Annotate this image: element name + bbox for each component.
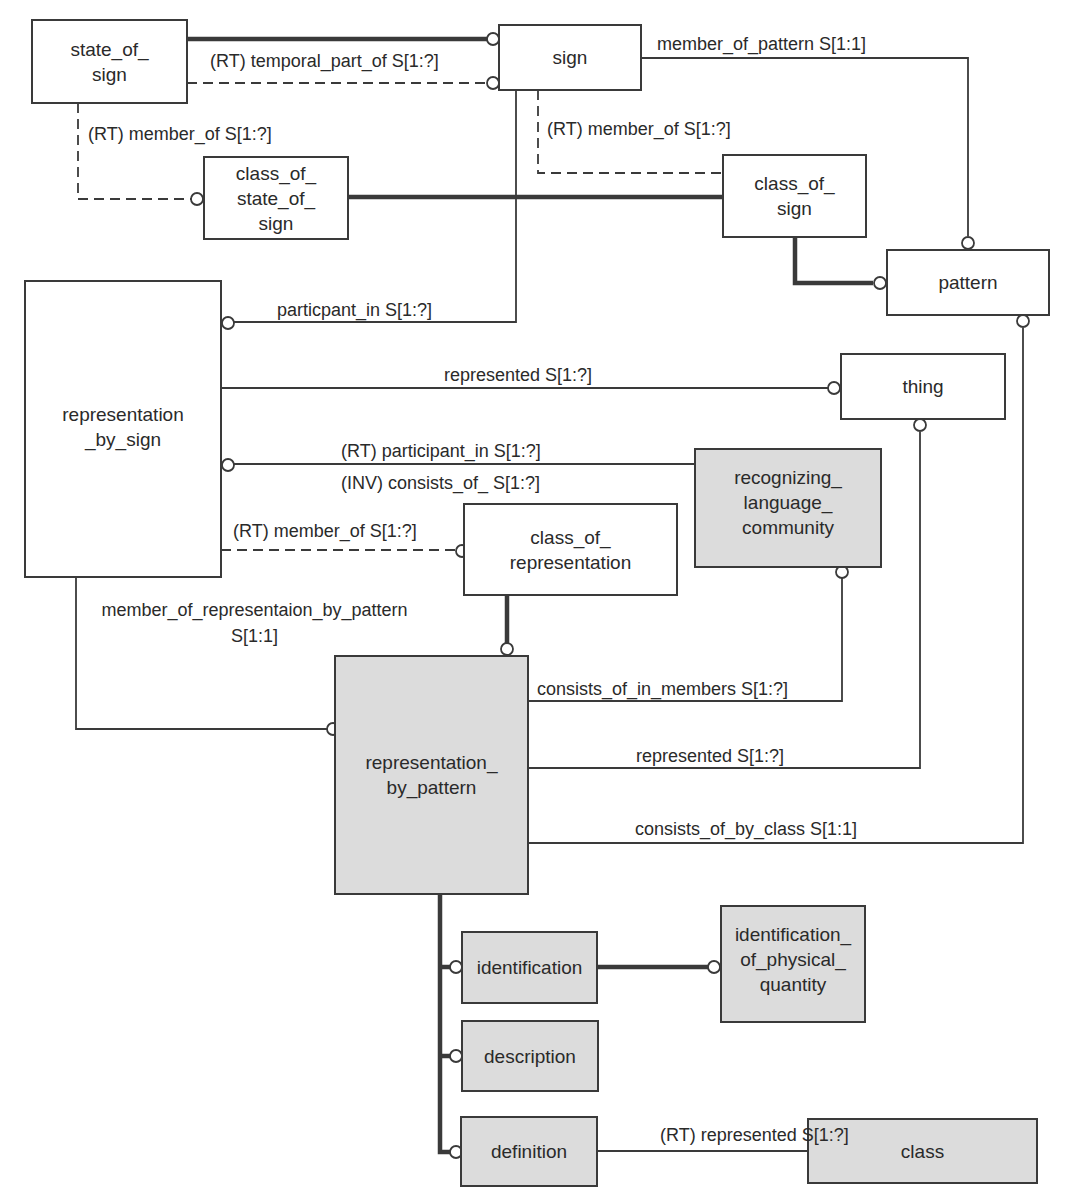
- entity-representation-by-pattern: representation_ by_pattern: [334, 655, 529, 895]
- entity-class-of-representation: class_of_ representation: [463, 503, 678, 596]
- label-consists-of-by-class: consists_of_by_class S[1:1]: [635, 818, 857, 840]
- entity-definition: definition: [460, 1116, 598, 1187]
- entity-identification-of-physical-quantity: identification_ of_physical_ quantity: [720, 905, 866, 1023]
- label-rbp-represented: represented S[1:?]: [636, 745, 784, 767]
- label-rt-participant-in: (RT) participant_in S[1:?]: [341, 440, 541, 462]
- entity-identification: identification: [461, 931, 598, 1004]
- label-inv-consists-of: (INV) consists_of_ S[1:?]: [341, 472, 540, 494]
- label-sign-member-of: (RT) member_of S[1:?]: [547, 118, 731, 140]
- entity-state-of-sign: state_of_ sign: [31, 19, 188, 104]
- label-temporal-part-of: (RT) temporal_part_of S[1:?]: [210, 50, 439, 72]
- label-definition-represented: (RT) represented S[1:?]: [660, 1124, 849, 1146]
- label-consists-of-in-members: consists_of_in_members S[1:?]: [537, 678, 788, 700]
- entity-representation-by-sign: representation _by_sign: [24, 280, 222, 578]
- entity-recognizing-language-community: recognizing_ language_ community: [694, 448, 882, 568]
- label-rbs-member-of: (RT) member_of S[1:?]: [233, 520, 417, 542]
- entity-pattern: pattern: [886, 249, 1050, 316]
- label-particpant-in: particpant_in S[1:?]: [277, 299, 432, 321]
- entity-class-of-state-of-sign: class_of_ state_of_ sign: [203, 156, 349, 240]
- entity-description: description: [461, 1020, 599, 1092]
- label-state-of-sign-member-of: (RT) member_of S[1:?]: [88, 123, 272, 145]
- label-member-of-representaion-by-pattern: member_of_representaion_by_pattern S[1:1…: [82, 597, 427, 649]
- entity-class-of-sign: class_of_ sign: [722, 154, 867, 238]
- label-member-of-pattern: member_of_pattern S[1:1]: [657, 33, 866, 55]
- label-represented-thing: represented S[1:?]: [444, 364, 592, 386]
- entity-sign: sign: [498, 24, 642, 91]
- entity-thing: thing: [840, 353, 1006, 420]
